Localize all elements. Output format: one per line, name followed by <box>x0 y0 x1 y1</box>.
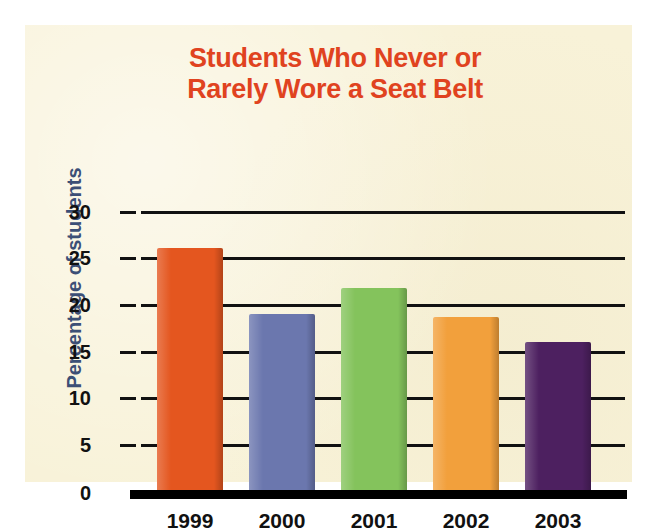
y-tick-15 <box>120 351 136 354</box>
y-tick-label-30: 30 <box>51 201 91 224</box>
x-tick-label-2001: 2001 <box>329 509 419 532</box>
x-axis-baseline <box>130 490 627 499</box>
bar-2002-fill <box>433 317 499 491</box>
x-tick-label-2002: 2002 <box>421 509 511 532</box>
y-tick-label-5: 5 <box>51 434 91 457</box>
y-tick-label-15: 15 <box>51 341 91 364</box>
y-tick-25 <box>120 257 136 260</box>
bar-2003-fill <box>525 342 591 491</box>
y-tick-20 <box>120 304 136 307</box>
x-tick-label-2003: 2003 <box>513 509 603 532</box>
chart-panel: Students Who Never or Rarely Wore a Seat… <box>25 25 632 482</box>
x-tick-label-1999: 1999 <box>145 509 235 532</box>
chart-title: Students Who Never or Rarely Wore a Seat… <box>75 43 595 105</box>
plot-area: 30 25 20 15 10 5 0 <box>120 105 607 425</box>
y-tick-label-10: 10 <box>51 387 91 410</box>
bar-1999-fill <box>157 248 223 491</box>
bar-2000-fill <box>249 314 315 491</box>
y-tick-label-20: 20 <box>51 294 91 317</box>
y-tick-10 <box>120 397 136 400</box>
bar-2001[interactable] <box>341 288 407 491</box>
y-tick-label-25: 25 <box>51 247 91 270</box>
bar-2001-fill <box>341 288 407 491</box>
chart-title-line-1: Students Who Never or <box>189 43 481 73</box>
y-tick-label-0: 0 <box>51 482 91 505</box>
bar-2000[interactable] <box>249 314 315 491</box>
chart-title-line-2: Rarely Wore a Seat Belt <box>75 74 595 105</box>
y-tick-5 <box>120 444 136 447</box>
x-tick-label-2000: 2000 <box>237 509 327 532</box>
bar-2003[interactable] <box>525 342 591 491</box>
y-tick-30 <box>120 211 136 214</box>
bar-2002[interactable] <box>433 317 499 491</box>
bar-1999[interactable] <box>157 248 223 491</box>
gridline-30 <box>141 211 625 214</box>
